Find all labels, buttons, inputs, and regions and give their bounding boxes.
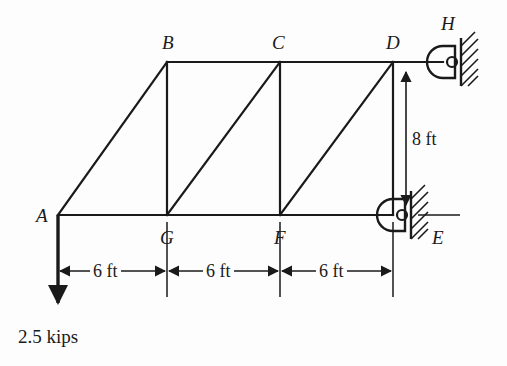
load-label: 2.5 kips [18, 327, 78, 346]
node-label-D: D [386, 33, 400, 52]
dimension-label-span-1: 6 ft [90, 262, 121, 280]
node-label-F: F [274, 228, 286, 247]
node-label-A: A [36, 206, 48, 225]
wall-hatch-E [411, 185, 428, 239]
truss-drawing-canvas [0, 0, 507, 366]
support-pin-E [377, 185, 428, 239]
node-label-C: C [272, 33, 285, 52]
node-label-G: G [160, 228, 174, 247]
truss-diagram: A B C D H E F G 6 ft 6 ft 6 ft 8 ft 2.5 … [0, 0, 507, 366]
member-FD [280, 62, 393, 215]
wall-hatch-H [461, 32, 478, 86]
support-pin-H [427, 32, 478, 86]
member-AB [58, 62, 167, 215]
horizontal-dimension-group [60, 222, 393, 297]
node-label-E: E [432, 228, 444, 247]
dimension-label-span-3: 6 ft [316, 262, 347, 280]
node-label-H: H [441, 14, 455, 33]
dimension-label-span-2: 6 ft [203, 262, 234, 280]
dimension-label-height: 8 ft [409, 130, 440, 148]
member-GC [167, 62, 280, 215]
node-label-B: B [162, 33, 174, 52]
truss-members [58, 62, 443, 215]
